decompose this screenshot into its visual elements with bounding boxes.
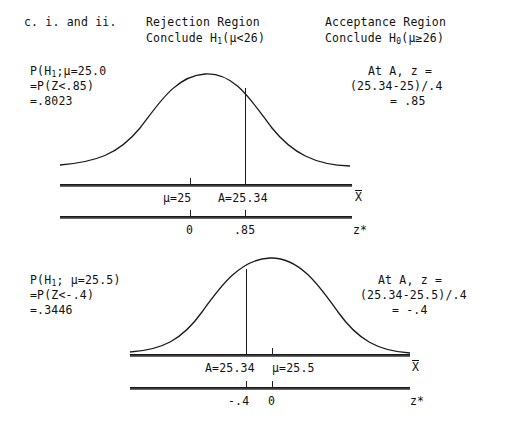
- statistics-diagram-page: c. i. and ii. Rejection Region Conclude …: [0, 0, 513, 433]
- panel2-z-label-zero: 0: [268, 394, 275, 408]
- panel2-z-label-critical: -.4: [228, 394, 249, 408]
- panel2-z-axis-name: z*: [410, 394, 424, 408]
- panel2-xbar-label-mu: μ=25.5: [272, 361, 315, 375]
- panel2-xbar-tick-mu: [272, 348, 273, 355]
- panel2-z-tick-zero: [272, 381, 273, 388]
- panel2-xbar-axis: [130, 354, 410, 357]
- panel2-xbar-label-a: A=25.34: [205, 361, 255, 375]
- panel2-xbar-glyph: X: [412, 360, 419, 373]
- panel2-xbar-axis-name: X: [412, 360, 419, 374]
- panel2-z-tick-critical: [246, 381, 247, 388]
- panel2-critical-value-line: [246, 269, 247, 355]
- panel2-normal-curve: [0, 0, 513, 433]
- panel2-z-axis: [130, 387, 410, 390]
